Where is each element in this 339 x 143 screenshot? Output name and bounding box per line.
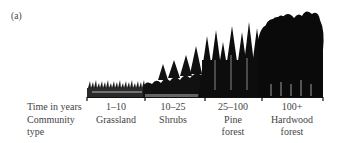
hardwood-forest-illustration (258, 11, 324, 97)
stage-time: 1–10 (86, 101, 146, 113)
stage-community: Pine (203, 114, 263, 126)
pine-forest-illustration (198, 22, 266, 97)
stage-time: 100+ (262, 101, 322, 113)
stage-community-line2: forest (262, 126, 322, 138)
shrubs-illustration (143, 46, 205, 97)
stage-time: 25–100 (203, 101, 263, 113)
stage-time: 10–25 (143, 101, 203, 113)
community-row-label: Community (27, 114, 75, 126)
stage-community: Shrubs (143, 114, 203, 126)
community-row-label-line2: type (27, 126, 44, 138)
stage-community: Grassland (86, 114, 146, 126)
time-row-label: Time in years (27, 101, 82, 113)
stage-community: Hardwood (262, 114, 322, 126)
stage-community-line2: forest (203, 126, 263, 138)
grassland-illustration (87, 80, 148, 97)
